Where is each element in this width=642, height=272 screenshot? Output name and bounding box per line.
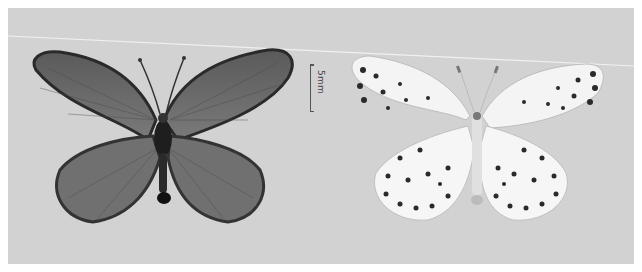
butterfly-underside [352, 56, 603, 220]
scale-bar [310, 64, 315, 112]
butterfly-upperside [34, 50, 292, 222]
specimen-photo: 5mm [8, 8, 634, 264]
scale-bar-label: 5mm [316, 70, 326, 94]
butterflies-graphic [8, 8, 634, 264]
scan-line [8, 36, 634, 66]
